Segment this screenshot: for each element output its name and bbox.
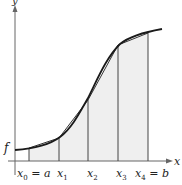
tick-label-x4: x4 = b: [135, 167, 169, 182]
tick-label-x2: x2: [87, 167, 98, 182]
x-axis-label: x: [174, 155, 181, 168]
tick-label-x3: x3: [116, 167, 127, 182]
trapezoidal-rule-diagram: f x y x0 = a x1 x2 x3 x4 = b: [0, 0, 182, 185]
tick-label-x1: x1: [57, 167, 68, 182]
y-axis-label: y: [11, 0, 18, 6]
y-axis-arrow-icon: [13, 5, 18, 12]
tick-label-x0: x0 = a: [17, 167, 50, 182]
function-label-f: f: [3, 141, 11, 155]
x-axis-arrow-icon: [166, 159, 173, 164]
